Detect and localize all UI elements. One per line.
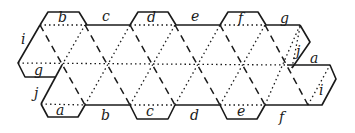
label-left-i: i [21, 31, 25, 47]
label-right-j: j [293, 43, 301, 59]
label-top-e: e [191, 8, 199, 24]
label-right-i: i [319, 82, 323, 98]
label-left-j: j [31, 85, 39, 101]
fold-diag-0 [62, 25, 85, 65]
label-bottom-a: a [56, 102, 64, 118]
dashed-folds [40, 25, 308, 105]
flap-right-j [292, 25, 310, 68]
label-bottom-e: e [237, 103, 245, 119]
dotted-folds [18, 25, 330, 105]
label-top-d: d [147, 9, 156, 25]
label-right-a: a [310, 50, 318, 66]
label-bottom-f: f [278, 109, 287, 125]
triangle-strip-net-diagram: b c d e f g i g j a b c d e f j a i [0, 0, 355, 133]
flap-left-j [41, 65, 62, 104]
label-bottom-c: c [146, 103, 154, 119]
label-left-g: g [34, 62, 43, 78]
label-bottom-b: b [101, 107, 110, 123]
label-top-b: b [58, 9, 67, 25]
label-top-c: c [102, 8, 110, 24]
flap-right-a-i [287, 65, 336, 105]
label-top-g: g [280, 10, 289, 26]
label-bottom-d: d [190, 107, 199, 123]
net-svg: b c d e f g i g j a b c d e f j a i [0, 0, 355, 133]
